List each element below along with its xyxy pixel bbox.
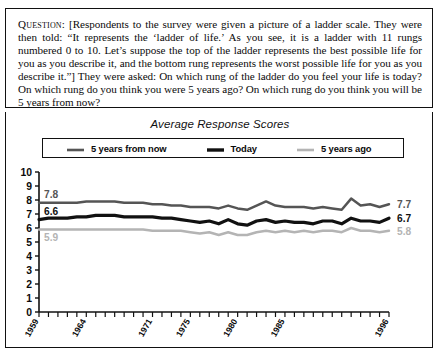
x-axis-tick-label: 1964: [70, 317, 88, 339]
x-axis-tick-label: 1996: [373, 317, 391, 339]
series-start-label-0: 7.8: [44, 189, 58, 200]
chart-plot-area: 0123456789101959196419711975198019851996…: [6, 112, 434, 348]
y-axis-tick-label: 2: [26, 279, 32, 290]
y-axis-tick-label: 1: [26, 293, 32, 304]
series-line-2: [39, 228, 389, 235]
y-axis-tick-label: 7: [26, 209, 32, 220]
y-axis-tick-label: 0: [26, 307, 32, 318]
x-axis-tick-label: 1980: [221, 317, 239, 339]
x-axis-tick-label: 1971: [136, 317, 154, 339]
series-start-label-2: 5.9: [44, 232, 58, 243]
series-end-label-0: 7.7: [397, 199, 411, 210]
series-line-0: [39, 199, 389, 210]
y-axis-tick-label: 6: [26, 223, 32, 234]
figure: Question: [Respondents to the survey wer…: [0, 0, 438, 353]
y-axis-tick-label: 9: [26, 181, 32, 192]
x-axis-tick-label: 1959: [23, 317, 41, 339]
series-start-label-1: 6.6: [44, 206, 58, 217]
y-axis-tick-label: 4: [26, 251, 32, 262]
y-axis-tick-label: 3: [26, 265, 32, 276]
x-axis-tick-label: 1985: [268, 317, 286, 339]
question-box: Question: [Respondents to the survey wer…: [5, 8, 433, 108]
x-axis-tick-label: 1975: [174, 317, 192, 339]
question-paragraph: Question: [Respondents to the survey wer…: [18, 18, 422, 109]
series-line-1: [39, 215, 389, 225]
series-end-label-2: 5.8: [397, 226, 411, 237]
y-axis-tick-label: 5: [26, 237, 32, 248]
question-body: [Respondents to the survey were given a …: [18, 18, 422, 108]
chart-panel: Average Response Scores 5 years from now…: [5, 112, 433, 348]
y-axis-tick-label: 8: [26, 195, 32, 206]
question-label: Question:: [18, 18, 65, 30]
line-chart-svg: 0123456789101959196419711975198019851996…: [6, 112, 434, 348]
series-end-label-1: 6.7: [397, 213, 411, 224]
y-axis-tick-label: 10: [20, 167, 32, 178]
